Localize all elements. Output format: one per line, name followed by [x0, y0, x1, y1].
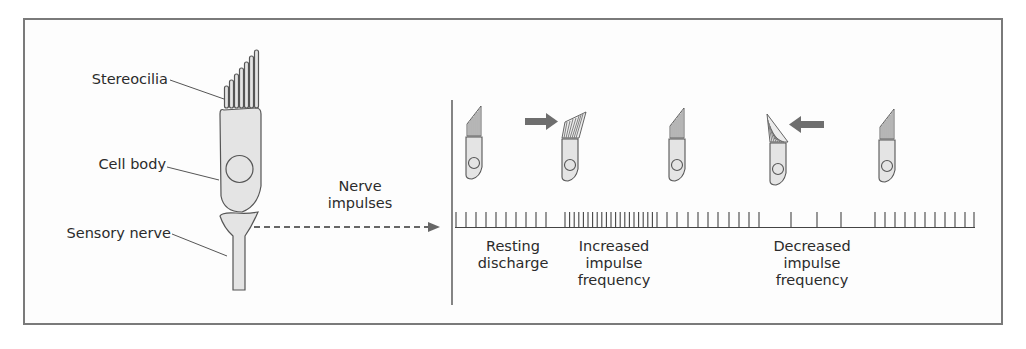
ticks-resting-1	[456, 212, 546, 227]
label-nerve-impulses-line2: impulses	[300, 195, 420, 212]
ticks-increased	[565, 212, 657, 227]
label-phase-decreased: Decreased impulse frequency	[757, 238, 867, 289]
leader-lines	[167, 80, 227, 256]
phase-resting-line2: discharge	[463, 255, 563, 272]
push-arrow-right	[525, 113, 558, 130]
nucleus	[226, 156, 253, 183]
hair-cell-state-3-resting	[669, 108, 685, 181]
hair-cell-state-2-bent-right	[562, 112, 586, 181]
label-nerve-impulses: Nerve impulses	[300, 178, 420, 212]
phase-decreased-line2: impulse	[757, 255, 867, 272]
sensory-nerve-shape	[220, 212, 258, 290]
hair-cell-state-1-resting	[466, 106, 482, 179]
ticks-resting-3	[875, 212, 974, 227]
label-nerve-impulses-line1: Nerve	[300, 178, 420, 195]
label-phase-increased: Increased impulse frequency	[559, 238, 669, 289]
label-sensory-nerve: Sensory nerve	[67, 225, 171, 242]
phase-increased-line2: impulse	[559, 255, 669, 272]
label-cell-body: Cell body	[98, 156, 166, 173]
push-arrow-left	[789, 116, 824, 133]
spike-train	[455, 212, 975, 228]
label-stereocilia: Stereocilia	[92, 71, 168, 88]
label-phase-resting: Resting discharge	[463, 238, 563, 272]
hair-cell-state-5-resting	[879, 109, 895, 182]
phase-decreased-line3: frequency	[757, 272, 867, 289]
ticks-decreased	[791, 212, 841, 227]
phase-decreased-line1: Decreased	[757, 238, 867, 255]
hair-cell-large	[220, 50, 261, 290]
stereocilia-bundle	[225, 50, 259, 108]
ticks-resting-2	[667, 212, 759, 227]
hair-cell-state-4-bent-left	[767, 114, 788, 185]
phase-resting-line1: Resting	[463, 238, 563, 255]
nerve-impulse-arrow	[254, 222, 440, 232]
diagram-canvas	[0, 0, 1026, 349]
phase-increased-line3: frequency	[559, 272, 669, 289]
phase-increased-line1: Increased	[559, 238, 669, 255]
